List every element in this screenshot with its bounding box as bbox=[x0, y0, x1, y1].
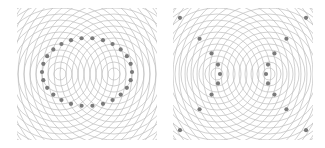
concentric-rings bbox=[173, 8, 313, 140]
hyperbola-interference-figure bbox=[173, 8, 313, 140]
curve-points bbox=[178, 16, 308, 133]
ellipse-diagram-panel bbox=[17, 8, 157, 140]
ellipse-interference-figure bbox=[17, 8, 157, 140]
hyperbola-diagram-panel bbox=[173, 8, 313, 140]
concentric-rings bbox=[17, 8, 157, 140]
